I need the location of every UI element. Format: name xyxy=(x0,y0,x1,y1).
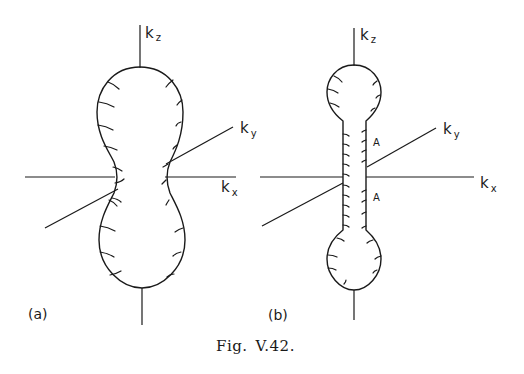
panel-label-b: (b) xyxy=(268,307,288,323)
kx-label-a: kx xyxy=(221,178,238,198)
ky-label-a: ky xyxy=(240,119,257,139)
neck-label-a-lower: A xyxy=(373,192,380,203)
neck-label-a-upper: A xyxy=(373,137,380,148)
figure-canvas: kz ky kx (a) xyxy=(0,0,524,374)
panel-a: kz ky kx (a) xyxy=(25,24,257,325)
caption-prefix: Fig. xyxy=(216,337,248,355)
hatch-marks-b xyxy=(328,76,381,284)
hatch-marks-a xyxy=(98,80,183,277)
ky-label-b: ky xyxy=(443,120,460,140)
figure-caption: Fig.V.42. xyxy=(216,337,295,355)
panel-b: kz ky kx A A (b) xyxy=(260,26,497,323)
ky-axis-lower-b xyxy=(262,183,343,226)
kz-label-a: kz xyxy=(145,24,161,43)
kz-label-b: kz xyxy=(360,26,376,45)
panel-label-a: (a) xyxy=(28,306,48,322)
kx-label-b: kx xyxy=(480,174,497,194)
caption-number: V.42. xyxy=(255,337,295,355)
